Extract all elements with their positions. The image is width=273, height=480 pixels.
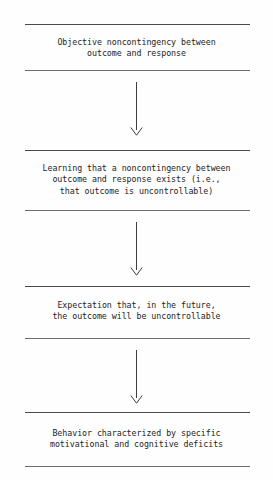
stage-2-bottom-rule bbox=[25, 210, 250, 211]
arrow-shaft bbox=[136, 82, 137, 130]
stage-1-label: Objective noncontingency between outcome… bbox=[14, 37, 259, 60]
arrow-head-down-icon bbox=[130, 127, 143, 136]
arrow-head-down-icon bbox=[130, 395, 143, 404]
stage-1-bottom-rule bbox=[25, 70, 250, 71]
stage-4-label: Behavior characterized by specific motiv… bbox=[14, 428, 259, 451]
stage-4-bottom-rule bbox=[25, 466, 250, 467]
stage-3-top-rule bbox=[25, 286, 250, 287]
stage-3-bottom-rule bbox=[25, 338, 250, 339]
arrow-head-down-icon bbox=[130, 267, 143, 276]
arrow-shaft bbox=[136, 222, 137, 270]
stage-2-top-rule bbox=[25, 150, 250, 151]
flowchart-page: Objective noncontingency between outcome… bbox=[0, 0, 273, 480]
arrow-stage1-to-stage2 bbox=[0, 82, 273, 138]
stage-1-top-rule bbox=[25, 24, 250, 25]
arrow-stage3-to-stage4 bbox=[0, 350, 273, 406]
stage-3-label: Expectation that, in the future, the out… bbox=[14, 300, 259, 323]
stage-4-top-rule bbox=[25, 412, 250, 413]
arrow-shaft bbox=[136, 350, 137, 398]
arrow-stage2-to-stage3 bbox=[0, 222, 273, 278]
stage-2-label: Learning that a noncontingency between o… bbox=[14, 163, 259, 197]
